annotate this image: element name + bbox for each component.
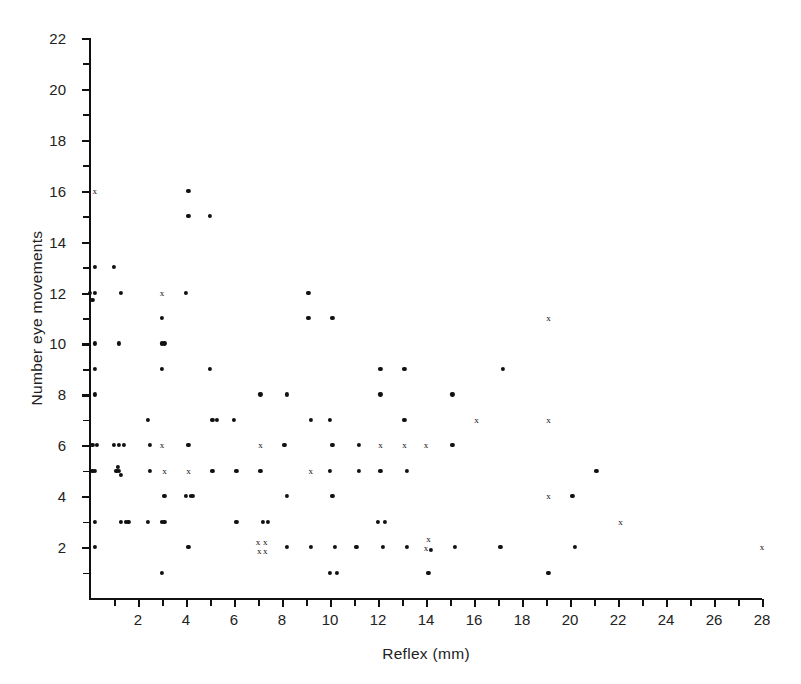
data-point	[186, 189, 190, 193]
data-point	[146, 418, 150, 422]
data-point	[93, 290, 97, 294]
data-point	[160, 367, 164, 371]
data-point	[285, 392, 289, 396]
x-tick-10	[330, 599, 332, 607]
data-point: x	[545, 314, 552, 323]
data-point	[330, 443, 334, 447]
data-point: x	[401, 441, 408, 450]
data-point	[429, 548, 433, 552]
data-point	[146, 520, 150, 524]
data-point	[376, 520, 380, 524]
data-point: x	[159, 288, 166, 297]
data-point: x	[545, 415, 552, 424]
x-tick-label-12: 12	[370, 611, 387, 628]
y-axis-label: Number eye movements	[22, 38, 52, 598]
data-point	[266, 520, 270, 524]
data-point	[93, 392, 97, 396]
y-tick-6	[82, 445, 90, 447]
data-point: x	[545, 492, 552, 501]
x-tick-9	[306, 599, 308, 606]
y-tick-8	[82, 394, 90, 396]
data-point: x	[257, 441, 264, 450]
data-point	[309, 545, 313, 549]
y-tick-19	[83, 114, 90, 116]
y-tick-7	[83, 420, 90, 422]
data-point	[112, 443, 116, 447]
y-tick-22	[82, 38, 90, 40]
data-point	[160, 316, 164, 320]
data-point	[383, 520, 387, 524]
y-tick-label-10: 10	[49, 335, 66, 352]
data-point: x	[377, 441, 384, 450]
data-point	[90, 443, 94, 447]
data-point	[215, 418, 219, 422]
y-tick-label-14: 14	[49, 233, 66, 250]
y-tick-13	[83, 267, 90, 269]
data-point	[88, 290, 92, 294]
x-tick-13	[402, 599, 404, 606]
data-point	[330, 494, 334, 498]
x-tick-label-4: 4	[182, 611, 190, 628]
x-tick-18	[522, 599, 524, 607]
data-point	[210, 469, 214, 473]
data-point	[184, 494, 188, 498]
x-tick-24	[666, 599, 668, 607]
data-point	[309, 418, 313, 422]
data-point	[162, 520, 166, 524]
y-tick-label-22: 22	[49, 30, 66, 47]
data-point	[93, 367, 97, 371]
data-point	[160, 570, 164, 574]
data-point	[186, 545, 190, 549]
data-point	[93, 265, 97, 269]
y-tick-label-6: 6	[58, 437, 66, 454]
y-tick-label-20: 20	[49, 80, 66, 97]
data-point: x	[185, 466, 192, 475]
y-tick-label-12: 12	[49, 284, 66, 301]
data-point	[208, 367, 212, 371]
data-point	[328, 469, 332, 473]
data-point	[90, 298, 94, 302]
data-point: x	[91, 186, 98, 195]
data-point	[381, 545, 385, 549]
data-point	[594, 469, 598, 473]
x-tick-7	[258, 599, 260, 606]
data-point	[573, 545, 577, 549]
y-tick-3	[83, 522, 90, 524]
x-tick-22	[618, 599, 620, 607]
y-tick-9	[83, 369, 90, 371]
data-point	[93, 545, 97, 549]
y-tick-16	[82, 191, 90, 193]
data-point	[122, 443, 126, 447]
data-point	[405, 545, 409, 549]
data-point: x	[423, 441, 430, 450]
x-tick-25	[690, 599, 692, 606]
data-point	[282, 443, 286, 447]
data-point	[402, 418, 406, 422]
data-point	[450, 443, 454, 447]
x-tick-12	[378, 599, 380, 607]
x-tick-label-8: 8	[278, 611, 286, 628]
data-point	[285, 494, 289, 498]
x-tick-label-10: 10	[322, 611, 339, 628]
y-tick-18	[82, 140, 90, 142]
x-tick-label-22: 22	[610, 611, 627, 628]
data-point	[546, 570, 550, 574]
x-tick-16	[474, 599, 476, 607]
data-point	[191, 494, 195, 498]
data-point	[186, 443, 190, 447]
x-tick-label-6: 6	[230, 611, 238, 628]
y-tick-10	[82, 343, 90, 345]
x-tick-19	[546, 599, 548, 606]
x-tick-label-24: 24	[658, 611, 675, 628]
y-tick-label-4: 4	[58, 488, 66, 505]
y-tick-5	[83, 471, 90, 473]
y-tick-label-8: 8	[58, 386, 66, 403]
scatter-plot-figure: Number eye movements Reflex (mm) 2468101…	[0, 0, 801, 684]
x-tick-2	[138, 599, 140, 607]
data-point	[186, 214, 190, 218]
data-point	[328, 418, 332, 422]
data-point: x	[161, 466, 168, 475]
data-point	[184, 290, 188, 294]
data-point	[501, 367, 505, 371]
data-point	[112, 265, 116, 269]
